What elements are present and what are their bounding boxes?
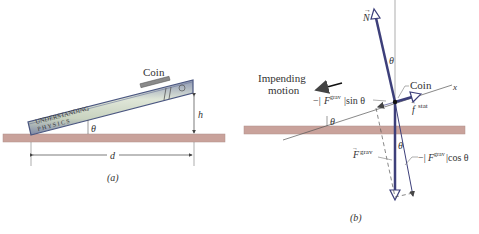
sin-component-label: −| F grav |sin θ [313,94,386,106]
book: UNDERSTANDING P H Y S I C S [28,80,193,135]
svg-text:→: → [364,6,371,14]
x-axis-label: x [452,82,457,92]
panel-b: x θ N → θ θ Coin f → stat [244,0,469,224]
svg-text:grav: grav [360,148,373,156]
impending-motion-line1: Impending [258,72,306,84]
physics-diagram: UNDERSTANDING P H Y S I C S Coin θ h d (… [0,0,479,234]
caption-b: (b) [350,212,362,224]
angle-label-bottom: θ [398,140,403,151]
height-label: h [198,109,203,120]
svg-text:|cos θ: |cos θ [446,152,469,163]
impending-motion-line2: motion [268,84,300,96]
coin-label-b: Coin [410,79,432,91]
cos-component-label: −| F grav |cos θ [405,151,469,165]
ground-strip-b [244,126,465,134]
svg-text:grav: grav [434,151,445,157]
coin-a [140,76,170,87]
panel-a: UNDERSTANDING P H Y S I C S Coin θ h d (… [3,66,225,184]
coin-dot [393,100,397,104]
friction-superscript: stat [418,102,428,110]
impending-motion-arrow [316,83,342,90]
svg-text:−|: −| [418,152,426,163]
angle-label-a: θ [91,123,96,134]
ground-strip-a [3,134,225,142]
gravity-label: F → grav [352,145,392,160]
coin-label-a: Coin [143,66,165,78]
angle-label-top: θ [389,55,394,66]
friction-label: f [412,104,416,115]
svg-text:→: → [410,99,416,105]
caption-a: (a) [107,172,119,184]
svg-text:−|: −| [313,95,321,106]
svg-text:grav: grav [330,94,341,100]
svg-text:|sin θ: |sin θ [344,95,365,106]
svg-text:→: → [352,145,358,151]
angle-label-incline: θ [330,116,335,127]
